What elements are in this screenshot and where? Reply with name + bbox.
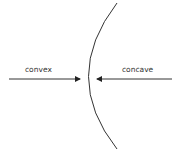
lens-diagram: convex concave bbox=[0, 0, 175, 153]
convex-label: convex bbox=[25, 65, 52, 74]
curved-surface bbox=[89, 3, 118, 149]
diagram-graphics bbox=[0, 0, 175, 153]
concave-label: concave bbox=[122, 65, 153, 74]
